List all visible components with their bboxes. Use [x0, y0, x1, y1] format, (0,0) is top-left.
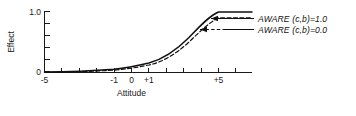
legend-label-aware-cb-1: AWARE (c,b)=1.0: [257, 14, 327, 24]
x-tick-label-plus5: +5: [214, 75, 224, 85]
effect-vs-attitude-line-chart: 1.0 0 -5 -1 0 +1 +5 Effect Attitude AWAR…: [0, 0, 356, 116]
series-line-aware-cb-0: [45, 18, 253, 73]
series-line-aware-cb-1: [45, 12, 253, 72]
legend-label-aware-cb-0: AWARE (c,b)=0.0: [257, 25, 327, 35]
x-tick-label-minus5: -5: [41, 75, 49, 85]
y-axis-title: Effect: [6, 31, 16, 53]
y-tick-label-top: 1.0: [29, 7, 41, 17]
annotation-arrow-aware-cb-0: [200, 27, 254, 32]
x-tick-label-plus1: +1: [144, 75, 154, 85]
annotation-arrow-aware-cb-1: [211, 16, 254, 21]
x-tick-label-minus1: -1: [110, 75, 118, 85]
x-tick-label-zero: 0: [129, 75, 134, 85]
x-axis-title: Attitude: [117, 88, 146, 98]
y-axis-ticks: [45, 12, 51, 72]
chart-figure: 1.0 0 -5 -1 0 +1 +5 Effect Attitude AWAR…: [0, 0, 356, 116]
